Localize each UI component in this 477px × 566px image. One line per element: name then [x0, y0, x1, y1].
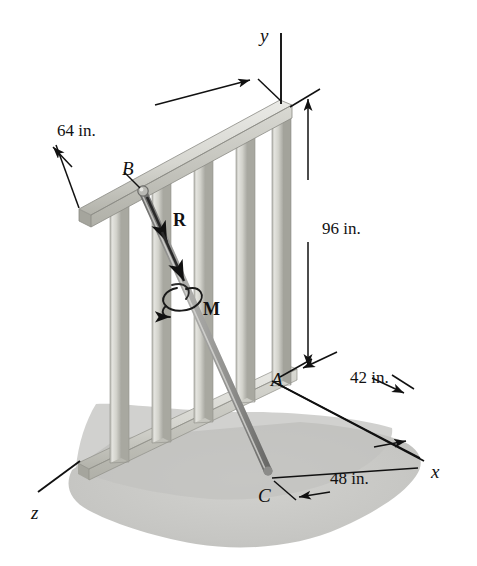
axis-label-y: y	[260, 26, 268, 45]
frame-stud-5	[272, 114, 291, 386]
frame-stud-3	[194, 151, 213, 423]
dim-label-64in: 64 in.	[57, 122, 96, 139]
dim-label-96in: 96 in.	[322, 220, 361, 237]
diagram-canvas	[0, 0, 477, 566]
frame-stud-1	[110, 191, 129, 463]
axis-label-x: x	[431, 462, 439, 481]
frame-stud-4	[236, 131, 255, 403]
axis-label-z: z	[31, 503, 38, 522]
point-label-b: B	[122, 159, 134, 178]
point-label-a: A	[271, 370, 283, 389]
force-label-r: R	[173, 211, 186, 229]
statics-figure: 64 in. 96 in. 42 in. 48 in. B A C y x z …	[0, 0, 477, 566]
moment-label-m: M	[203, 300, 220, 318]
dim-label-42in: 42 in.	[350, 369, 389, 386]
point-label-c: C	[258, 486, 271, 505]
frame-top-plate	[79, 100, 292, 227]
dim-label-48in: 48 in.	[330, 470, 369, 487]
